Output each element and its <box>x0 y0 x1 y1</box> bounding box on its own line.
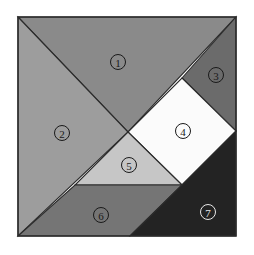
tangram-figure: 1234567 <box>0 0 254 255</box>
tangram-pieces-layer <box>18 17 236 236</box>
tangram-canvas: 1234567 <box>0 0 254 255</box>
